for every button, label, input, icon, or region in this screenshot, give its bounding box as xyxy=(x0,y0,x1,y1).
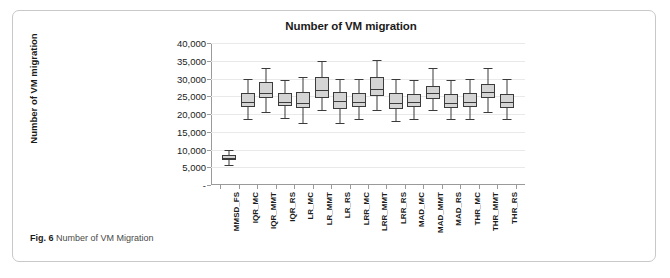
figure-caption-text: Number of VM Migration xyxy=(56,233,154,243)
lower-whisker-cap xyxy=(373,110,382,111)
box-plot-thr-mc[interactable]: THR_MC xyxy=(460,43,478,185)
x-tick-label: LR_RS xyxy=(343,192,352,218)
box-iqr xyxy=(259,82,273,98)
upper-whisker xyxy=(469,79,470,94)
median-line xyxy=(444,103,458,104)
figure-caption-label: Fig. 6 xyxy=(30,233,54,243)
lower-whisker-cap xyxy=(280,118,289,119)
upper-whisker xyxy=(284,80,285,92)
box-iqr xyxy=(352,93,366,107)
x-tick-label: MAD_MMT xyxy=(436,192,445,233)
box-iqr xyxy=(463,93,477,106)
lower-whisker-cap xyxy=(354,119,363,120)
upper-whisker xyxy=(321,61,322,77)
y-tick-label: 15,000 xyxy=(150,126,206,137)
y-tick-mark xyxy=(207,43,211,44)
upper-whisker-cap xyxy=(225,150,234,151)
box-iqr xyxy=(241,93,255,107)
chart-area: Number of VM migration Number of VM migr… xyxy=(13,11,657,229)
lower-whisker-cap xyxy=(225,165,234,166)
upper-whisker-cap xyxy=(336,79,345,80)
upper-whisker xyxy=(340,79,341,92)
box-plot-lr-rs[interactable]: LR_RS xyxy=(331,43,349,185)
x-tick-label: IQR_MMT xyxy=(269,192,278,229)
box-iqr xyxy=(407,94,421,106)
y-tick-label: 20,000 xyxy=(150,109,206,120)
x-tick-mark xyxy=(442,185,443,189)
y-tick-mark xyxy=(207,185,211,186)
box-plot-thr-mmt[interactable]: THR_MMT xyxy=(479,43,497,185)
y-tick-mark xyxy=(207,132,211,133)
upper-whisker-cap xyxy=(243,79,252,80)
y-axis-title: Number of VM migration xyxy=(28,19,39,159)
median-line xyxy=(333,101,347,102)
lower-whisker-cap xyxy=(317,110,326,111)
upper-whisker xyxy=(358,79,359,93)
upper-whisker-cap xyxy=(280,80,289,81)
median-line xyxy=(241,102,255,103)
median-line xyxy=(352,102,366,103)
x-tick-mark xyxy=(220,185,221,189)
box-plot-lrr-mc[interactable]: LRR_MC xyxy=(350,43,368,185)
box-plot-mad-rs[interactable]: MAD_RS xyxy=(442,43,460,185)
box-plot-thr-rs[interactable]: THR_RS xyxy=(497,43,515,185)
lower-whisker xyxy=(469,107,470,119)
x-tick-mark xyxy=(239,185,240,189)
median-line xyxy=(315,90,329,91)
x-tick-label: THR_MMT xyxy=(491,192,500,231)
upper-whisker xyxy=(488,68,489,84)
x-tick-label: IQR_RS xyxy=(288,192,297,222)
box-iqr xyxy=(315,77,329,98)
box-plot-mmsd-fs[interactable]: MMSD_FS xyxy=(220,43,238,185)
box-plot-iqr-mc[interactable]: IQR_MC xyxy=(239,43,257,185)
x-tick-mark xyxy=(294,185,295,189)
x-tick-mark xyxy=(460,185,461,189)
median-line xyxy=(389,103,403,104)
median-line xyxy=(259,93,273,94)
x-tick-mark xyxy=(276,185,277,189)
lower-whisker xyxy=(377,96,378,110)
box-plot-lrr-mmt[interactable]: LRR_MMT xyxy=(368,43,386,185)
lower-whisker-cap xyxy=(262,112,271,113)
box-plot-lr-mmt[interactable]: LR_MMT xyxy=(313,43,331,185)
lower-whisker xyxy=(321,98,322,110)
box-plot-mad-mmt[interactable]: MAD_MMT xyxy=(423,43,441,185)
upper-whisker xyxy=(266,68,267,82)
upper-whisker xyxy=(247,79,248,93)
upper-whisker xyxy=(303,77,304,92)
upper-whisker-cap xyxy=(373,60,382,61)
lower-whisker xyxy=(451,108,452,120)
figure-caption: Fig. 6 Number of VM Migration xyxy=(30,233,154,243)
box-plot-iqr-mmt[interactable]: IQR_MMT xyxy=(257,43,275,185)
upper-whisker-cap xyxy=(262,68,271,69)
upper-whisker xyxy=(395,79,396,94)
x-tick-mark xyxy=(331,185,332,189)
lower-whisker xyxy=(266,98,267,112)
lower-whisker-cap xyxy=(465,119,474,120)
y-tick-label: 35,000 xyxy=(150,55,206,66)
x-tick-mark xyxy=(479,185,480,189)
box-plot-mad-mc[interactable]: MAD_MC xyxy=(405,43,423,185)
box-iqr xyxy=(296,92,310,108)
lower-whisker xyxy=(432,99,433,110)
upper-whisker-cap xyxy=(410,80,419,81)
x-tick-mark xyxy=(313,185,314,189)
x-tick-mark xyxy=(405,185,406,189)
lower-whisker-cap xyxy=(428,110,437,111)
lower-whisker xyxy=(358,107,359,119)
y-tick-mark xyxy=(207,79,211,80)
upper-whisker-cap xyxy=(428,68,437,69)
y-tick-mark xyxy=(207,114,211,115)
box-plot-lr-mc[interactable]: LR_MC xyxy=(294,43,312,185)
lower-whisker-cap xyxy=(391,121,400,122)
upper-whisker xyxy=(414,80,415,94)
median-line xyxy=(407,102,421,103)
x-tick-label: MMSD_FS xyxy=(232,192,241,231)
median-line xyxy=(222,158,236,159)
x-tick-mark xyxy=(497,185,498,189)
upper-whisker-cap xyxy=(484,68,493,69)
lower-whisker xyxy=(395,109,396,121)
box-iqr xyxy=(481,84,495,98)
box-plot-iqr-rs[interactable]: IQR_RS xyxy=(276,43,294,185)
box-plot-lrr-rs[interactable]: LRR_RS xyxy=(386,43,404,185)
